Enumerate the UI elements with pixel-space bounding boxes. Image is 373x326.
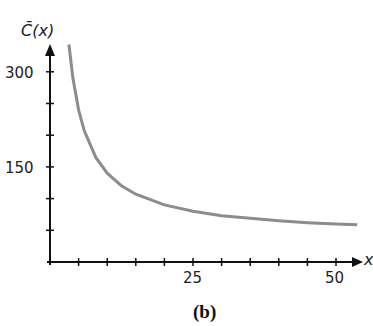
x-tick-label-25: 25: [183, 269, 202, 287]
y-axis-arrow-icon: [45, 44, 55, 56]
tick-marks: [46, 72, 336, 266]
y-tick-label-150: 150: [5, 159, 34, 177]
average-cost-chart: C̄(x) 300 150 25 50 x (b): [0, 0, 373, 326]
x-tick-label-50: 50: [325, 269, 344, 287]
axes: [45, 44, 363, 267]
average-cost-curve: [69, 45, 357, 225]
x-axis-arrow-icon: [352, 257, 363, 267]
figure-caption: (b): [193, 301, 216, 323]
x-axis-label: x: [363, 250, 373, 269]
y-axis-label: C̄(x): [21, 21, 54, 40]
y-tick-label-300: 300: [5, 64, 34, 82]
